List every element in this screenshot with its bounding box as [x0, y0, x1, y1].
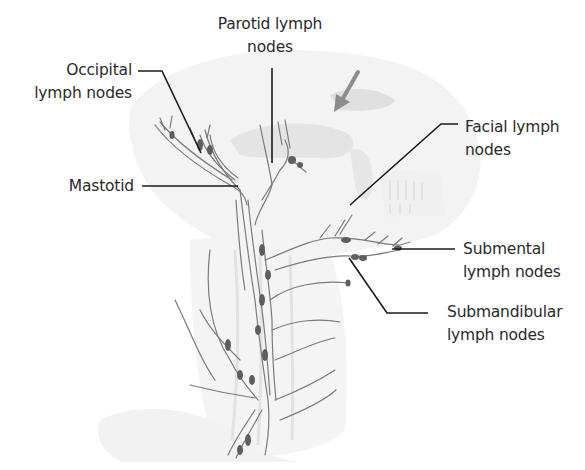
- leader-line-submandibular: [349, 258, 428, 313]
- label-submandibular-lymph-nodes: Submandibular lymph nodes: [447, 301, 562, 347]
- label-line: nodes: [205, 36, 335, 59]
- label-facial-lymph-nodes: Facial lymph nodes: [465, 116, 559, 162]
- label-line: lymph nodes: [447, 324, 562, 347]
- label-submental-lymph-nodes: Submental lymph nodes: [463, 238, 561, 284]
- label-parotid-lymph-nodes: Parotid lymph nodes: [205, 13, 335, 59]
- label-line: lymph nodes: [463, 261, 561, 284]
- label-line: Submandibular: [447, 301, 562, 324]
- label-occipital-lymph-nodes: Occipital lymph nodes: [10, 59, 132, 105]
- label-line: Facial lymph: [465, 116, 559, 139]
- label-line: Mastotid: [30, 175, 134, 198]
- label-line: Submental: [463, 238, 561, 261]
- label-line: lymph nodes: [10, 82, 132, 105]
- label-line: Parotid lymph: [205, 13, 335, 36]
- label-mastoid: Mastotid: [30, 175, 134, 198]
- label-line: Occipital: [10, 59, 132, 82]
- label-line: nodes: [465, 139, 559, 162]
- lymph-node-diagram: Occipital lymph nodes Parotid lymph node…: [0, 0, 585, 470]
- skull-silhouette: [98, 50, 480, 462]
